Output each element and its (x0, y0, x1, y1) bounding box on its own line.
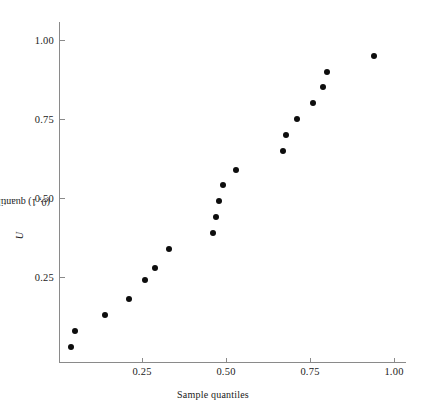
qq-plot: 0.250.500.751.00 0.250.500.751.00 Sample… (0, 0, 426, 411)
x-tick-mark (142, 358, 143, 363)
data-point (324, 69, 330, 75)
data-point (102, 312, 108, 318)
x-tick-mark (310, 358, 311, 363)
data-point (213, 214, 219, 220)
data-point (371, 53, 377, 59)
y-tick-label: 1.00 (35, 35, 54, 46)
y-tick-mark (60, 40, 65, 41)
x-axis-line (59, 362, 406, 363)
x-tick-mark (394, 358, 395, 363)
data-point (152, 265, 158, 271)
y-axis-title-rest: (0, 1) quantiles (0, 196, 50, 207)
y-tick-label: 0.75 (35, 114, 54, 125)
data-point (142, 277, 148, 283)
y-tick-mark (60, 119, 65, 120)
data-point (320, 84, 326, 90)
data-point (68, 344, 74, 350)
data-point (280, 148, 286, 154)
x-tick-label: 0.75 (300, 366, 319, 377)
x-tick-label: 0.50 (216, 366, 235, 377)
data-point (310, 100, 316, 106)
data-point (72, 328, 78, 334)
y-tick-mark (60, 277, 65, 278)
data-point (294, 116, 300, 122)
x-tick-label: 1.00 (384, 366, 403, 377)
y-tick-mark (60, 198, 65, 199)
y-axis-title-symbol: U (15, 232, 26, 239)
data-point (220, 182, 226, 188)
x-axis-title: Sample quantiles (0, 389, 426, 400)
data-point (283, 132, 289, 138)
y-axis-title-text: U(0, 1) quantiles (15, 172, 26, 240)
data-point (233, 167, 239, 173)
data-point (166, 246, 172, 252)
x-tick-label: 0.25 (132, 366, 151, 377)
x-tick-mark (226, 358, 227, 363)
y-tick-label: 0.25 (35, 272, 54, 283)
data-point (216, 198, 222, 204)
data-point (126, 296, 132, 302)
y-axis-line (59, 22, 60, 363)
data-point (210, 230, 216, 236)
y-axis-title: U(0, 1) quantiles (12, 0, 28, 411)
